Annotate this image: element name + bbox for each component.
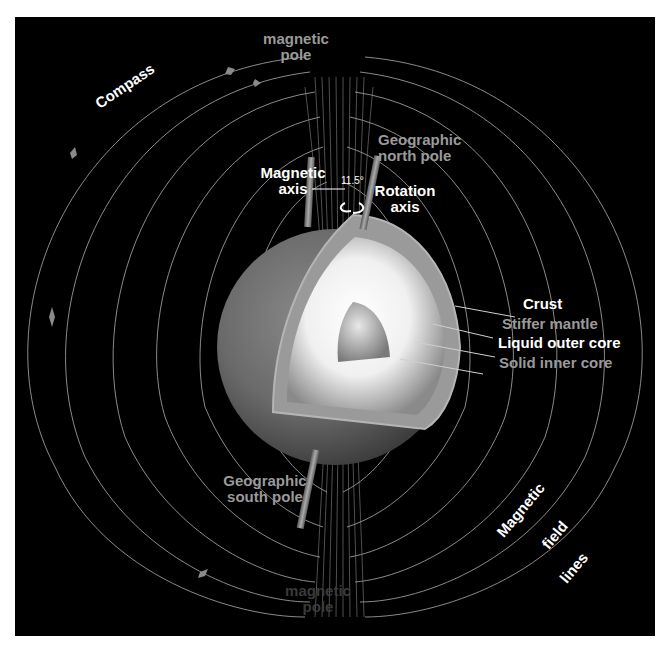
layer-label-crust: Crust: [523, 296, 562, 312]
rotation-axis-line2: axis: [370, 199, 440, 215]
magnetic-pole-top-line2: pole: [251, 47, 341, 63]
rotation-axis-line1: Rotation: [370, 183, 440, 199]
magnetic-pole-top-line1: magnetic: [251, 31, 341, 47]
magnetic-axis-line2: axis: [253, 181, 333, 197]
tilt-angle-label: 11.5°: [341, 173, 364, 189]
magnetic-pole-bottom-line1: magnetic: [273, 583, 363, 599]
geographic-south-line1: Geographic: [210, 473, 320, 489]
layer-label-solid-inner-core: Solid inner core: [499, 355, 612, 371]
magnetic-pole-bottom-line2: pole: [273, 599, 363, 615]
magnetic-pole-bottom-label: magnetic pole: [273, 583, 363, 615]
magnetic-axis-line1: Magnetic: [253, 165, 333, 181]
geographic-south-line2: south pole: [210, 489, 320, 505]
layer-label-stiffer-mantle: Stiffer mantle: [502, 316, 598, 332]
geographic-south-label: Geographic south pole: [210, 473, 320, 505]
geographic-north-line1: Geographic: [378, 132, 461, 148]
magnetic-axis-label: Magnetic axis: [253, 165, 333, 197]
rotation-axis-label: Rotation axis: [370, 183, 440, 215]
layer-label-liquid-outer-core: Liquid outer core: [498, 335, 621, 351]
geographic-north-label: Geographic north pole: [378, 132, 461, 164]
geographic-north-line2: north pole: [378, 148, 461, 164]
diagram-panel: magnetic pole Compass Geographic north p…: [15, 17, 655, 636]
magnetic-pole-top-label: magnetic pole: [251, 31, 341, 63]
